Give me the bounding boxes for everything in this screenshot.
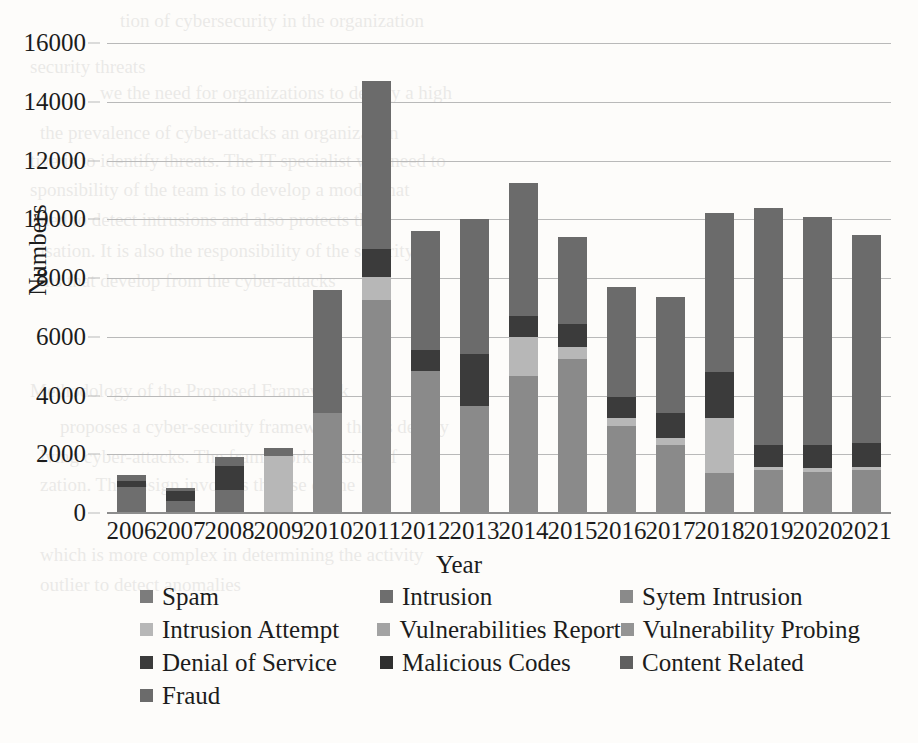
legend-row: Denial of ServiceMalicious CodesContent … [140, 646, 860, 679]
x-tick-label: 2007 [156, 517, 206, 545]
bar-2020[interactable] [803, 217, 831, 513]
legend-item-malicious-codes[interactable]: Malicious Codes [380, 650, 620, 675]
legend-item-spam[interactable]: Spam [140, 584, 380, 609]
bar-2013[interactable] [460, 219, 488, 513]
bar-segment-denial-of-service [803, 445, 831, 469]
bar-segment-denial-of-service [509, 316, 537, 337]
legend-item-intrusion-attempt[interactable]: Intrusion Attempt [140, 617, 377, 642]
bar-2007[interactable] [166, 488, 194, 513]
legend-item-denial-of-service[interactable]: Denial of Service [140, 650, 380, 675]
bar-segment-intrusion-attempt [558, 347, 586, 359]
bar-segment-fraud [313, 290, 341, 413]
x-tick-label: 2016 [597, 517, 647, 545]
y-axis-tick-labels: 0200040006000800010000120001400016000 [0, 43, 100, 513]
legend-item-sytem-intrusion[interactable]: Sytem Intrusion [620, 584, 860, 609]
bar-segment-sytem-intrusion [411, 371, 439, 513]
bar-segment-denial-of-service [656, 413, 684, 438]
bar-segment-sytem-intrusion [362, 300, 390, 513]
bar-segment-sytem-intrusion [509, 376, 537, 513]
y-tick-mark [88, 160, 100, 161]
bar-2021[interactable] [852, 235, 880, 513]
bar-2014[interactable] [509, 183, 537, 513]
bar-segment-denial-of-service [558, 324, 586, 348]
x-tick-label: 2014 [499, 517, 549, 545]
bar-2010[interactable] [313, 290, 341, 513]
bar-2009[interactable] [264, 448, 292, 513]
legend-swatch-icon [380, 656, 393, 669]
bar-segment-fraud [705, 213, 733, 372]
bar-segment-fraud [558, 237, 586, 324]
legend-item-vulnerabilities-report[interactable]: Vulnerabilities Report [377, 617, 620, 642]
bar-2018[interactable] [705, 213, 733, 513]
legend-swatch-icon [620, 590, 633, 603]
bar-segment-denial-of-service [166, 491, 194, 501]
bar-2006[interactable] [117, 475, 145, 513]
legend-item-fraud[interactable]: Fraud [140, 683, 400, 708]
bar-segment-sytem-intrusion [460, 406, 488, 513]
bar-segment-sytem-intrusion [558, 359, 586, 513]
y-tick-label: 14000 [24, 88, 87, 116]
y-tick-mark [88, 219, 100, 220]
plot-area [107, 43, 891, 513]
legend-label: Content Related [642, 650, 804, 675]
bar-2019[interactable] [754, 208, 782, 514]
bar-segment-denial-of-service [705, 372, 733, 418]
bar-2012[interactable] [411, 231, 439, 513]
bar-segment-intrusion [166, 501, 194, 513]
bar-segment-sytem-intrusion [803, 472, 831, 513]
bar-segment-fraud [362, 81, 390, 248]
bar-segment-fraud [411, 231, 439, 350]
x-tick-label: 2013 [450, 517, 500, 545]
x-tick-label: 2020 [793, 517, 843, 545]
bar-segment-sytem-intrusion [705, 473, 733, 513]
bar-segment-intrusion [117, 487, 145, 513]
legend-swatch-icon [140, 590, 153, 603]
bar-segment-fraud [607, 287, 635, 397]
legend-label: Malicious Codes [402, 650, 571, 675]
y-tick-label: 6000 [36, 323, 86, 351]
y-tick-label: 16000 [24, 29, 87, 57]
bar-group [107, 43, 891, 513]
bar-2011[interactable] [362, 81, 390, 513]
bar-2015[interactable] [558, 237, 586, 513]
bar-segment-sytem-intrusion [313, 413, 341, 513]
x-tick-label: 2006 [107, 517, 157, 545]
bar-segment-denial-of-service [460, 354, 488, 405]
bar-segment-intrusion-attempt [607, 418, 635, 427]
x-tick-label: 2009 [254, 517, 304, 545]
legend-swatch-icon [140, 689, 153, 702]
bar-segment-sytem-intrusion [852, 470, 880, 513]
y-tick-label: 8000 [36, 264, 86, 292]
bar-segment-intrusion-attempt [705, 418, 733, 474]
bar-segment-intrusion-attempt [362, 277, 390, 301]
legend-row: Intrusion AttemptVulnerabilities ReportV… [140, 613, 860, 646]
bar-2017[interactable] [656, 297, 684, 513]
bar-2016[interactable] [607, 287, 635, 513]
legend-label: Intrusion Attempt [162, 617, 339, 642]
bar-segment-denial-of-service [362, 249, 390, 277]
bar-segment-denial-of-service [411, 350, 439, 371]
x-tick-label: 2010 [303, 517, 353, 545]
y-tick-mark [88, 101, 100, 102]
x-tick-label: 2012 [401, 517, 451, 545]
y-tick-mark [88, 43, 100, 44]
y-tick-mark [88, 513, 100, 514]
y-tick-label: 4000 [36, 382, 86, 410]
legend-label: Spam [162, 584, 219, 609]
legend-label: Denial of Service [162, 650, 337, 675]
legend-swatch-icon [140, 623, 153, 636]
legend-label: Fraud [162, 683, 220, 708]
legend-swatch-icon [620, 656, 633, 669]
bar-segment-denial-of-service [215, 466, 243, 490]
legend-item-content-related[interactable]: Content Related [620, 650, 860, 675]
y-tick-mark [88, 454, 100, 455]
bar-segment-fraud [460, 219, 488, 354]
y-tick-mark [88, 336, 100, 337]
x-tick-label: 2021 [842, 517, 892, 545]
bar-segment-denial-of-service [754, 445, 782, 467]
bar-segment-intrusion [215, 490, 243, 514]
legend-label: Intrusion [402, 584, 492, 609]
bar-2008[interactable] [215, 457, 243, 513]
legend-item-intrusion[interactable]: Intrusion [380, 584, 620, 609]
legend-item-vulnerability-probing[interactable]: Vulnerability Probing [621, 617, 860, 642]
